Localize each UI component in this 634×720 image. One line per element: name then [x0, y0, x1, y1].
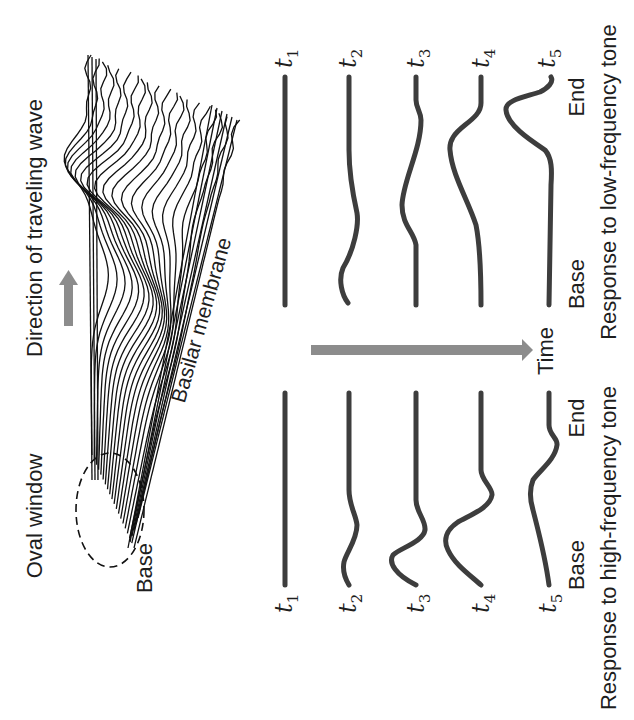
membrane-edge-line — [136, 117, 232, 524]
direction-label: Direction of traveling wave — [22, 99, 47, 357]
high-trace-t3 — [392, 393, 426, 585]
low-base-label: Base — [564, 259, 589, 309]
base-label-top: Base — [132, 543, 157, 593]
low-trace-t3 — [402, 77, 421, 305]
low-end-label: End — [564, 77, 589, 116]
high-end-label: End — [564, 398, 589, 437]
membrane-edge-line — [92, 57, 95, 480]
low-frequency-caption: Response to low-frequency tone — [596, 24, 621, 340]
right-arrow-icon — [311, 339, 533, 361]
high-base-label: Base — [564, 540, 589, 590]
svg-text:t2: t2 — [334, 49, 366, 68]
svg-text:t4: t4 — [467, 49, 499, 68]
high-trace-t5 — [530, 393, 557, 585]
svg-text:t2: t2 — [334, 594, 366, 613]
membrane-edge-line — [138, 120, 237, 518]
svg-text:t1: t1 — [270, 49, 302, 68]
high-frequency-caption: Response to high-frequency tone — [596, 386, 621, 710]
high-trace-t4 — [446, 393, 492, 585]
basilar-membrane-figure: Oval window Base Direction of traveling … — [0, 0, 634, 720]
low-trace-t4 — [450, 77, 481, 305]
high-frequency-response: t1 t2 t3 t4 t5 Base End Response to high… — [270, 386, 621, 710]
traveling-wave-diagram: Oval window Base Direction of traveling … — [22, 55, 240, 593]
svg-text:t5: t5 — [533, 49, 565, 68]
svg-text:t4: t4 — [467, 594, 499, 613]
svg-text:t3: t3 — [402, 594, 434, 613]
low-t-labels: t1 t2 t3 t4 t5 — [270, 49, 565, 68]
membrane-edge-line — [88, 55, 92, 480]
time-label: Time — [533, 327, 558, 375]
high-trace-t2 — [343, 393, 357, 585]
svg-text:t5: t5 — [534, 594, 566, 613]
low-frequency-response: t1 t2 t3 t4 t5 Base End Response to low-… — [270, 24, 621, 340]
high-t-labels: t1 t2 t3 t4 t5 — [270, 594, 566, 613]
low-trace-t5 — [506, 77, 552, 305]
oval-window-label: Oval window — [22, 454, 47, 579]
svg-text:t1: t1 — [270, 594, 302, 613]
low-trace-t2 — [341, 77, 358, 303]
svg-text:t3: t3 — [402, 49, 434, 68]
up-arrow-icon — [59, 270, 78, 326]
